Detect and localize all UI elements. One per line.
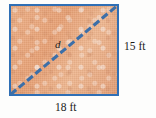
diagonal-dashed-line bbox=[11, 6, 118, 95]
geometry-figure: d 15 ft 18 ft bbox=[0, 0, 156, 118]
height-label: 15 ft bbox=[124, 41, 145, 53]
diagonal-label: d bbox=[55, 39, 61, 50]
diagonal-line-svg bbox=[9, 4, 119, 96]
width-label: 18 ft bbox=[55, 102, 76, 114]
